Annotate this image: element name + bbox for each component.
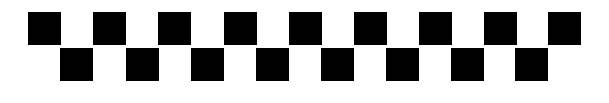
square-bottom-3 (191, 48, 224, 81)
square-bottom-6 (386, 48, 419, 81)
square-top-6 (354, 12, 387, 45)
square-top-3 (158, 12, 191, 45)
square-top-2 (93, 12, 126, 45)
square-top-8 (484, 12, 517, 45)
square-bottom-5 (321, 48, 354, 81)
square-top-1 (28, 12, 61, 45)
square-top-5 (289, 12, 322, 45)
square-bottom-8 (515, 48, 548, 81)
square-top-4 (224, 12, 257, 45)
square-bottom-2 (126, 48, 159, 81)
square-bottom-1 (60, 48, 93, 81)
square-bottom-7 (451, 48, 484, 81)
square-top-7 (419, 12, 452, 45)
checkerboard-strip (0, 0, 609, 103)
square-top-9 (548, 12, 581, 45)
square-bottom-4 (256, 48, 289, 81)
